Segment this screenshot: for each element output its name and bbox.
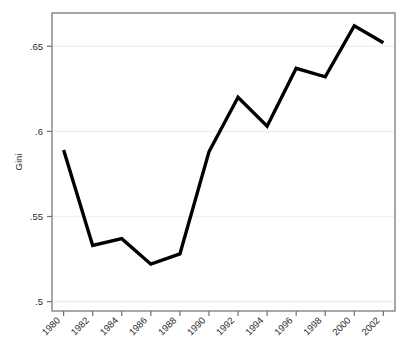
x-axis-tick-label: 1994 (243, 315, 266, 338)
x-axis-tick-label: 1998 (301, 315, 324, 338)
x-axis-tick-label: 1984 (97, 315, 120, 338)
y-axis-tick-label: .5 (35, 296, 43, 307)
x-axis-tick-label: 1990 (185, 315, 208, 338)
y-axis-title: Gini (13, 154, 24, 171)
line-chart-svg: .5.55.6.65 19801982198419861988199019921… (0, 0, 409, 357)
x-axis-tick-label: 2002 (359, 315, 382, 338)
y-axis-ticks: .5.55.6.65 (30, 41, 52, 307)
x-axis-tick-label: 1992 (214, 315, 237, 338)
y-axis-tick-label: .55 (30, 211, 43, 222)
x-axis-tick-label: 1980 (39, 315, 62, 338)
x-axis-tick-label: 2000 (330, 315, 353, 338)
plot-background (52, 13, 395, 311)
y-axis-tick-label: .65 (30, 41, 43, 52)
x-axis-tick-label: 1996 (272, 315, 295, 338)
x-axis-tick-label: 1986 (127, 315, 150, 338)
x-axis-tick-label: 1988 (156, 315, 179, 338)
x-axis-tick-label: 1982 (68, 315, 91, 338)
x-axis-ticks: 1980198219841986198819901992199419961998… (39, 311, 383, 337)
y-axis-tick-label: .6 (35, 126, 43, 137)
chart-container: .5.55.6.65 19801982198419861988199019921… (0, 0, 409, 357)
